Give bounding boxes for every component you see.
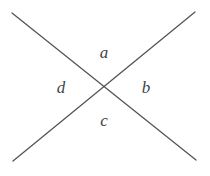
angle-label-b: b — [142, 78, 151, 97]
angle-label-c: c — [100, 111, 108, 130]
angle-label-d: d — [57, 78, 66, 97]
line-2 — [13, 12, 195, 161]
intersecting-lines-diagram: a b c d — [0, 0, 210, 176]
angle-label-a: a — [100, 43, 109, 62]
